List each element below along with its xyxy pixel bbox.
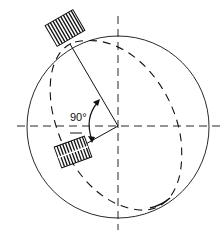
dashed-ellipse-path — [50, 40, 182, 210]
arrowhead-upper-icon — [93, 99, 100, 106]
angle-arc-arrow — [89, 102, 98, 140]
angle-label: 90° — [70, 111, 87, 123]
solid-ellipse-segment — [150, 198, 170, 208]
rotation-diagram: 90° — [0, 0, 224, 237]
lower-hatched-block — [54, 136, 92, 168]
